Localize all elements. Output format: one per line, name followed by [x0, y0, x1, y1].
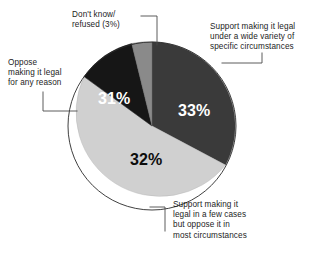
callout-label-dont-know: Don't know/ refused (3%)	[72, 10, 158, 30]
leader-line-few-cases	[150, 207, 165, 231]
slice-value-oppose: 31%	[98, 90, 130, 108]
slice-value-few-cases: 32%	[130, 151, 162, 169]
callout-label-wide-variety: Support making it legal under a wide var…	[210, 22, 314, 53]
pie-slices	[68, 42, 236, 210]
callout-label-oppose: Oppose making it legal for any reason	[8, 58, 86, 89]
pie-chart-figure: Don't know/ refused (3%) Support making …	[0, 0, 319, 263]
leader-line-wide-variety	[222, 53, 262, 63]
callout-label-few-cases: Support making it legal in a few cases b…	[173, 200, 277, 241]
slice-value-wide-variety: 33%	[178, 102, 210, 120]
